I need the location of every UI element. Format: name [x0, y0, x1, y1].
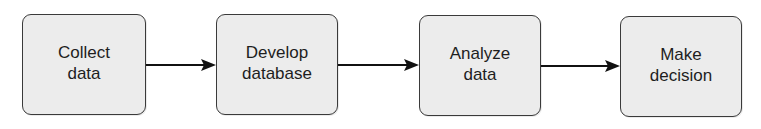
- node-label: Develop database: [242, 42, 312, 84]
- node-collect-data: Collect data: [22, 14, 146, 115]
- node-label: Collect data: [58, 42, 110, 84]
- node-develop-database: Develop database: [216, 14, 338, 115]
- node-label: Make decision: [650, 44, 712, 86]
- node-make-decision: Make decision: [620, 16, 742, 117]
- arrow-develop-to-analyze: [338, 59, 419, 71]
- arrow-analyze-to-decide: [541, 60, 620, 72]
- arrow-collect-to-develop: [146, 59, 216, 71]
- node-analyze-data: Analyze data: [419, 15, 541, 116]
- node-label: Analyze data: [450, 43, 510, 85]
